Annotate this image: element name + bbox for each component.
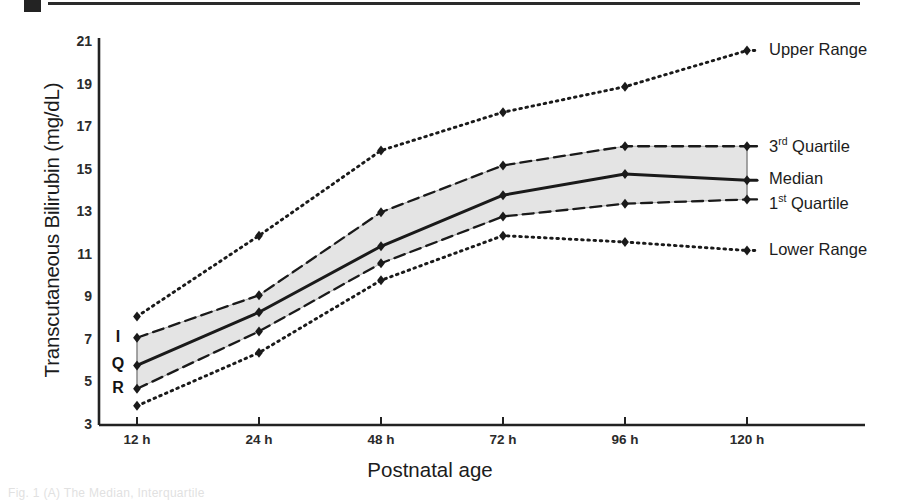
y-tick-label-3: 3 [58, 416, 92, 432]
y-tick-label-13: 13 [58, 203, 92, 219]
x-tick-label-12h: 12 h [102, 432, 172, 447]
y-tick-label-19: 19 [58, 76, 92, 92]
legend-third-quartile-ordinal: rd [778, 135, 787, 147]
y-axis-title: Transcutaneous Bilirubin (mg/dL) [40, 35, 64, 425]
iqr-letter-i: I [108, 328, 128, 346]
legend-first-quartile-number: 1 [769, 194, 778, 212]
x-tick-label-96h: 96 h [590, 432, 660, 447]
data-point-marker [377, 275, 385, 285]
figure-root: Transcutaneous Bilirubin (mg/dL) Postnat… [0, 0, 899, 500]
legend-label-third-quartile: 3rd Quartile [769, 135, 850, 156]
data-point-marker [621, 237, 629, 247]
figure-caption-fragment: Fig. 1 (A) The Median, Interquartile [8, 486, 205, 500]
data-point-marker [499, 231, 507, 241]
y-tick-label-21: 21 [58, 33, 92, 49]
legend-label-first-quartile: 1st Quartile [769, 192, 849, 213]
x-tick-label-72h: 72 h [468, 432, 538, 447]
legend-label-median: Median [769, 169, 823, 188]
data-point-marker [255, 348, 263, 358]
y-tick-label-9: 9 [58, 288, 92, 304]
iqr-letter-q: Q [108, 355, 128, 373]
legend-first-quartile-word: Quartile [786, 194, 848, 212]
x-axis-title: Postnatal age [250, 458, 610, 482]
x-tick-label-48h: 48 h [346, 432, 416, 447]
iqr-shaded-band [137, 146, 747, 389]
data-point-marker [621, 82, 629, 92]
iqr-letter-r: R [108, 379, 128, 397]
legend-third-quartile-word: Quartile [788, 137, 850, 155]
x-tick-label-24h: 24 h [224, 432, 294, 447]
y-tick-label-17: 17 [58, 118, 92, 134]
y-tick-label-15: 15 [58, 161, 92, 177]
legend-label-lower-range: Lower Range [769, 240, 867, 259]
legend-third-quartile-number: 3 [769, 137, 778, 155]
x-tick-label-120h: 120 h [712, 432, 782, 447]
data-point-marker [133, 311, 141, 321]
y-tick-label-5: 5 [58, 373, 92, 389]
y-tick-label-7: 7 [58, 331, 92, 347]
data-point-marker [133, 401, 141, 411]
legend-label-upper-range: Upper Range [769, 40, 867, 59]
bilirubin-nomogram-chart [0, 0, 899, 500]
data-point-marker [499, 107, 507, 117]
y-tick-label-11: 11 [58, 246, 92, 262]
